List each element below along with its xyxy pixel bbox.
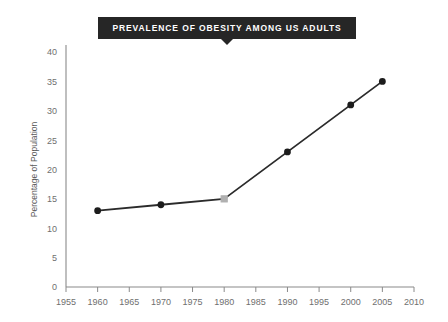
y-tick-label: 15 (47, 194, 57, 204)
y-tick-label: 5 (52, 253, 57, 263)
x-tick-label: 1965 (119, 297, 139, 307)
y-axis: 0510152025303540 (47, 45, 66, 292)
line-chart-plot: 0510152025303540 19551960196519701975198… (0, 0, 448, 322)
x-tick-label: 1995 (309, 297, 329, 307)
x-tick-label: 1985 (246, 297, 266, 307)
data-point-markers (94, 78, 386, 214)
y-tick-label: 20 (47, 165, 57, 175)
y-tick-label: 30 (47, 106, 57, 116)
data-point-marker (94, 207, 101, 214)
x-tick-label: 2010 (404, 297, 424, 307)
data-point-marker (379, 78, 386, 85)
axis-titles: Percentage of Population (29, 122, 39, 218)
series-line (98, 81, 383, 210)
data-series (98, 81, 383, 210)
data-point-marker (284, 148, 291, 155)
y-tick-label: 0 (52, 282, 57, 292)
x-tick-label: 2000 (341, 297, 361, 307)
y-tick-label: 40 (47, 47, 57, 57)
x-tick-label: 1955 (56, 297, 76, 307)
y-axis-title: Percentage of Population (29, 122, 39, 218)
x-tick-label: 1975 (183, 297, 203, 307)
y-tick-label: 35 (47, 77, 57, 87)
x-tick-label: 1960 (88, 297, 108, 307)
data-point-marker (347, 101, 354, 108)
data-point-marker-square (221, 196, 227, 202)
y-tick-label: 10 (47, 224, 57, 234)
x-tick-label: 1970 (151, 297, 171, 307)
x-tick-label: 2005 (372, 297, 392, 307)
data-point-marker (158, 201, 165, 208)
x-axis: 1955196019651970197519801985199019952000… (56, 287, 424, 307)
x-tick-label: 1990 (277, 297, 297, 307)
x-tick-label: 1980 (214, 297, 234, 307)
y-tick-label: 25 (47, 136, 57, 146)
chart-container: PREVALENCE OF OBESITY AMONG US ADULTS 05… (0, 0, 448, 322)
